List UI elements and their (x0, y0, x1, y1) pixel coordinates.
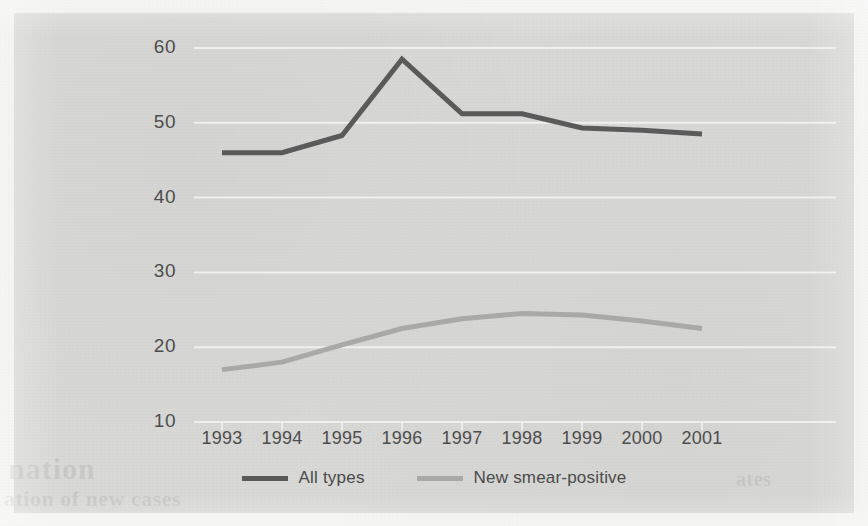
data-series-group (222, 59, 702, 369)
x-axis-label-1995: 1995 (311, 428, 373, 449)
x-axis-label-1997: 1997 (431, 428, 493, 449)
x-axis-label-1994: 1994 (251, 428, 313, 449)
series-line-new-smear-positive (222, 314, 702, 370)
y-axis-label-60: 60 (130, 36, 176, 58)
legend-label: All types (299, 468, 365, 488)
scanned-page: nation ation of new cases ates 102030405… (0, 0, 868, 526)
legend-swatch-icon (417, 476, 463, 481)
x-axis-label-1998: 1998 (491, 428, 553, 449)
y-axis-label-40: 40 (130, 186, 176, 208)
legend-item-all-types: All types (242, 468, 365, 488)
x-axis-label-1993: 1993 (191, 428, 253, 449)
y-axis-label-50: 50 (130, 111, 176, 133)
legend-swatch-icon (242, 476, 288, 481)
y-axis-label-10: 10 (130, 410, 176, 432)
x-axis-label-1996: 1996 (371, 428, 433, 449)
legend-label: New smear-positive (474, 468, 627, 488)
chart-legend: All typesNew smear-positive (0, 468, 868, 488)
x-axis-label-1999: 1999 (551, 428, 613, 449)
series-line-all-types (222, 59, 702, 153)
x-axis-label-2001: 2001 (671, 428, 733, 449)
y-axis-label-20: 20 (130, 335, 176, 357)
y-axis-label-30: 30 (130, 260, 176, 282)
gridlines (194, 48, 836, 422)
x-axis-label-2000: 2000 (611, 428, 673, 449)
legend-item-new-smear-positive: New smear-positive (417, 468, 627, 488)
